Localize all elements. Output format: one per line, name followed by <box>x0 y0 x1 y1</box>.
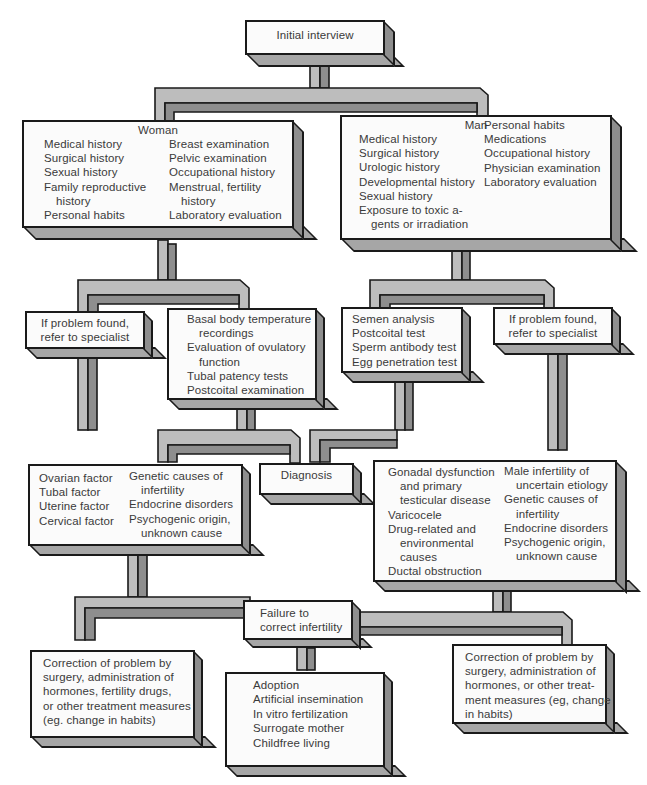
failure-box: Failure to correct infertility <box>243 600 353 640</box>
woman-history-col1: Medical history Surgical history Sexual … <box>44 137 146 222</box>
woman-causes-col1: Ovarian factor Tubal factor Uterine fact… <box>39 471 114 528</box>
woman-tests-box: Basal body temperature recordings Evalua… <box>167 308 317 400</box>
man-refer-box: If problem found, refer to specialist <box>493 307 613 345</box>
initial-interview-label: Initial interview <box>245 28 385 42</box>
man-history-col2: Personal habits Medications Occupational… <box>484 118 601 189</box>
woman-tests-list: Basal body temperature recordings Evalua… <box>187 312 311 397</box>
woman-heading: Woman <box>22 123 294 137</box>
man-tests-box: Semen analysis Postcoital test Sperm ant… <box>341 307 463 373</box>
woman-refer-text: If problem found, refer to specialist <box>25 316 145 344</box>
man-refer-text: If problem found, refer to specialist <box>493 312 613 340</box>
man-history-col1: Medical history Surgical history Urologi… <box>359 132 475 231</box>
failure-text: Failure to correct infertility <box>260 606 342 634</box>
woman-refer-box: If problem found, refer to specialist <box>25 311 145 349</box>
man-causes-col1: Gonadal dysfunction and primary testicul… <box>388 465 495 579</box>
alternatives-box: Adoption Artificial insemination In vitr… <box>225 672 385 767</box>
woman-causes-col2: Genetic causes of infertility Endocrine … <box>129 469 233 540</box>
man-history-box: Man Medical history Surgical history Uro… <box>340 115 612 240</box>
woman-history-box: Woman Medical history Surgical history S… <box>22 120 294 228</box>
man-treatment-text: Correction of problem by surgery, admini… <box>465 650 611 721</box>
man-treatment-box: Correction of problem by surgery, admini… <box>452 644 607 724</box>
woman-causes-box: Ovarian factor Tubal factor Uterine fact… <box>28 464 243 546</box>
woman-history-col2: Breast examination Pelvic examination Oc… <box>169 137 282 222</box>
diagnosis-label: Diagnosis <box>259 468 354 482</box>
woman-treatment-text: Correction of problem by surgery, admini… <box>43 656 191 727</box>
man-tests-list: Semen analysis Postcoital test Sperm ant… <box>352 312 457 369</box>
initial-interview-box: Initial interview <box>245 20 385 55</box>
man-causes-col2: Male infertility of uncertain etiology G… <box>504 464 608 563</box>
woman-treatment-box: Correction of problem by surgery, admini… <box>30 650 195 738</box>
alternatives-list: Adoption Artificial insemination In vitr… <box>253 678 363 750</box>
man-causes-box: Gonadal dysfunction and primary testicul… <box>373 460 617 582</box>
diagnosis-box: Diagnosis <box>259 463 354 495</box>
